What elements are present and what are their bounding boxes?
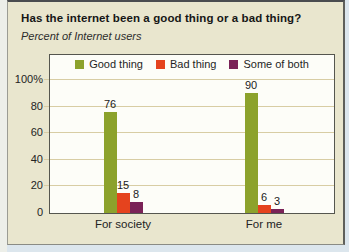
y-tick-label: 0 (11, 206, 43, 218)
bar-value-label: 76 (104, 98, 116, 110)
y-tick (44, 132, 49, 133)
legend-item: Bad thing (156, 58, 216, 70)
gridline (50, 185, 334, 186)
y-tick-label: 100% (11, 73, 43, 85)
chart-panel: Has the internet been a good thing or a … (7, 0, 345, 245)
y-tick-label: 20 (11, 179, 43, 191)
x-category-label: For me (246, 218, 282, 230)
legend: Good thingBad thingSome of both (50, 58, 334, 70)
legend-item: Good thing (75, 58, 143, 70)
bar (258, 205, 271, 213)
bar-value-label: 8 (133, 188, 139, 200)
legend-item: Some of both (229, 58, 308, 70)
legend-swatch-icon (156, 60, 165, 69)
legend-label: Some of both (243, 58, 308, 70)
y-tick (44, 159, 49, 160)
legend-label: Bad thing (170, 58, 216, 70)
gridline (50, 79, 334, 80)
y-tick-label: 60 (11, 126, 43, 138)
bar (130, 202, 143, 213)
bar-value-label: 90 (245, 79, 257, 91)
gridline (50, 132, 334, 133)
chart-title: Has the internet been a good thing or a … (21, 12, 301, 24)
y-tick-label: 80 (11, 100, 43, 112)
bar-value-label: 3 (274, 195, 280, 207)
bar (104, 112, 117, 213)
y-tick (44, 185, 49, 186)
plot-area: Good thingBad thingSome of both 76158906… (49, 54, 335, 214)
gridline (50, 106, 334, 107)
y-tick-label: 40 (11, 153, 43, 165)
gridline (50, 159, 334, 160)
y-tick (44, 79, 49, 80)
bar (245, 93, 258, 213)
bar (271, 209, 284, 213)
x-category-label: For society (95, 218, 151, 230)
bar-value-label: 15 (117, 179, 129, 191)
chart-subtitle: Percent of Internet users (21, 30, 141, 42)
y-tick (44, 106, 49, 107)
legend-swatch-icon (75, 60, 84, 69)
bar (117, 193, 130, 213)
screenshot-root: Has the internet been a good thing or a … (0, 0, 349, 252)
legend-swatch-icon (229, 60, 238, 69)
legend-label: Good thing (89, 58, 143, 70)
bar-value-label: 6 (261, 191, 267, 203)
page-edge-left (0, 0, 7, 252)
